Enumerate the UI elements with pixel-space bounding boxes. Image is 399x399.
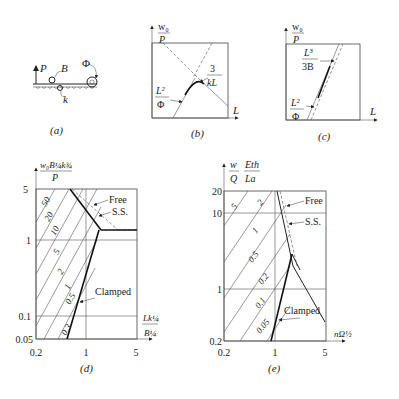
figure-canvas: P B k Φ (a) w₀ P 3 kL L²: [0, 0, 399, 399]
svg-text:0.2: 0.2: [256, 271, 271, 286]
annot-3B: 3B: [302, 61, 314, 72]
x-label: L: [232, 104, 239, 116]
svg-text:1: 1: [62, 282, 73, 291]
svg-text:5: 5: [51, 247, 62, 256]
x-tick: 1: [84, 347, 89, 358]
clamped-boundary: [271, 254, 292, 341]
y-tick: 20: [212, 186, 222, 197]
svg-text:5: 5: [229, 201, 240, 211]
label-P: P: [39, 62, 47, 74]
caption-d: (d): [80, 362, 93, 375]
y-label-num: w₀B¼k¾: [40, 160, 72, 170]
y-label-num: w₀: [158, 21, 169, 32]
svg-text:0.1: 0.1: [253, 295, 268, 310]
annot-3: 3: [210, 63, 215, 74]
legend-ss: S.S.: [305, 216, 321, 227]
annot-phi: Φ: [157, 99, 164, 110]
legend-arrow: [94, 200, 108, 205]
svg-text:2: 2: [55, 267, 66, 276]
rotational-spring-icon: [87, 77, 97, 87]
panel-d: w₀B¼k¾ P 5 1 0.1 0.05 0.2 1 5 Lk¼ B¼: [16, 160, 160, 375]
label-k: k: [63, 93, 69, 105]
svg-text:20: 20: [42, 210, 55, 223]
y-tick: 0.1: [19, 311, 32, 322]
panel-e: w Q Eth La 20 10 1 0.2 0.2 1 5 nΩ½: [210, 159, 353, 375]
svg-text:0.05: 0.05: [254, 316, 272, 335]
label-phi: Φ: [82, 57, 90, 69]
x-label-den: B¼: [144, 328, 156, 338]
y-tick: 5: [23, 184, 28, 195]
legend-arrow: [287, 201, 304, 206]
svg-text:10: 10: [48, 224, 61, 237]
parameter-lines: [224, 191, 290, 341]
panel-c: w₀ P L³ 3B L² Φ L (c): [286, 21, 377, 143]
node-B-icon: [49, 77, 55, 83]
annot-L2: L²: [155, 85, 166, 96]
response-curve: [185, 82, 204, 95]
legend-free: Free: [109, 194, 127, 205]
y-tick: 0.2: [210, 336, 223, 347]
y-tick: 10: [212, 208, 222, 219]
legend-clamped: Clamped: [284, 305, 320, 316]
caption-a: (a): [50, 124, 63, 137]
x-tick: 5: [323, 347, 328, 358]
legend-arrow: [80, 298, 95, 302]
panel-a: P B k Φ (a): [33, 57, 97, 137]
y-label-den: P: [158, 34, 165, 45]
annot-kL: kL: [207, 77, 217, 88]
spring-k-icon: [58, 86, 63, 91]
rotational-spring-inner: [90, 80, 94, 84]
y-label-a-den: Q: [230, 173, 238, 184]
annot-L2: L²: [290, 97, 301, 108]
label-B: B: [61, 62, 68, 74]
peak-segment: [292, 254, 300, 270]
line-L2-phi: [173, 78, 195, 118]
line-L2-phi-dashed: [311, 44, 343, 120]
legend-clamped: Clamped: [95, 286, 131, 297]
y-tick: 0.05: [16, 334, 34, 345]
clamped-boundary: [67, 230, 99, 339]
svg-text:1: 1: [250, 225, 261, 235]
y-tick: 1: [217, 284, 222, 295]
y-label-a-num: w: [230, 159, 237, 170]
curve-labels: 50 20 10 5 2 1 0.5 0.3: [39, 195, 78, 337]
y-label-num: w₀: [292, 21, 303, 32]
caption-c: (c): [318, 130, 331, 143]
x-tick: 5: [134, 347, 139, 358]
x-tick: 1: [273, 347, 278, 358]
y-tick: 1: [26, 235, 31, 246]
y-label-b-num: Eth: [244, 159, 259, 170]
curve-labels: 5 2 1 0.5 0.2 0.1 0.05: [229, 197, 272, 335]
y-label-den: P: [51, 172, 58, 183]
caption-e: (e): [268, 362, 281, 375]
x-label: nΩ½: [334, 329, 352, 339]
ss-boundary: [277, 191, 293, 266]
response-curve: [318, 66, 330, 98]
y-label-den: P: [292, 34, 299, 45]
free-boundary: [280, 191, 297, 266]
legend-free: Free: [305, 195, 323, 206]
legend-ss: S.S.: [112, 206, 128, 217]
panel-b: w₀ P 3 kL L² Φ L (b): [152, 21, 239, 140]
x-tick: 0.2: [218, 347, 231, 358]
legend-arrow: [289, 222, 304, 224]
x-label-num: Lk¼: [142, 313, 159, 323]
x-tick: 0.2: [30, 347, 43, 358]
y-label-b-den: La: [244, 173, 256, 184]
annot-arrow: [170, 100, 182, 102]
caption-b: (b): [191, 127, 204, 140]
svg-text:0.5: 0.5: [63, 291, 78, 306]
legend-arrow: [99, 212, 111, 216]
x-label: L: [369, 105, 376, 117]
annot-L3: L³: [303, 47, 314, 58]
asymptote-3-kL: [163, 43, 198, 78]
annot-phi: Φ: [292, 111, 299, 122]
ss-boundary: [70, 189, 101, 230]
